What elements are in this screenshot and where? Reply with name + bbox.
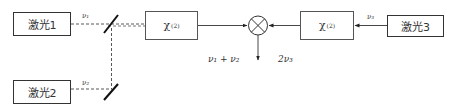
laser-1-label: 激光1	[28, 16, 57, 32]
label-nu2: ν₂	[82, 79, 89, 87]
beam-nu1	[71, 24, 145, 26]
mixer-icon	[249, 16, 268, 35]
label-sum-frequency: ν₁ + ν₂	[208, 54, 239, 64]
mirror-2-icon	[104, 84, 118, 100]
chi2-crystal-2-box: χ(2)	[300, 11, 354, 40]
label-double-frequency: 2ν₃	[278, 54, 293, 64]
chi-order: (2)	[171, 22, 180, 29]
laser-1-box: 激光1	[13, 12, 71, 36]
chi-symbol: χ	[163, 19, 170, 32]
laser-3-box: 激光3	[387, 15, 444, 37]
chi-symbol: χ	[319, 19, 326, 32]
label-nu3: ν₃	[367, 13, 374, 21]
chi2-crystal-1-box: χ(2)	[145, 11, 198, 40]
chi-order: (2)	[327, 22, 336, 29]
laser-2-box: 激光2	[13, 80, 71, 104]
laser-2-label: 激光2	[28, 84, 57, 100]
label-nu1: ν₁	[82, 12, 89, 20]
laser-3-label: 激光3	[401, 18, 430, 34]
